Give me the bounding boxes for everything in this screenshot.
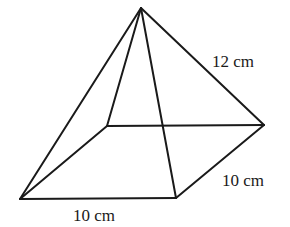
edge-base-front: [20, 198, 176, 199]
edge-base-back: [107, 125, 264, 126]
label-slant-edge: 12 cm: [212, 52, 254, 71]
label-base-side-right: 10 cm: [222, 171, 264, 190]
label-base-side-front: 10 cm: [73, 206, 115, 225]
edge-base-left: [20, 126, 107, 199]
edge-apex-front-left: [20, 8, 141, 199]
pyramid-diagram: 12 cm 10 cm 10 cm: [0, 0, 290, 227]
edge-apex-back-left: [107, 8, 141, 126]
